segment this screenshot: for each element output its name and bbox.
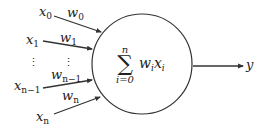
neuron-diagram: x0 x1 xn−1 xn w0 w1 wn−1 wn ⋮ ⋮ n ∑ i=0 … (0, 0, 264, 129)
ellipsis-x: ⋮ (28, 56, 39, 69)
sum-symbol: ∑ (117, 51, 133, 76)
weight-label-wn: wn (62, 88, 79, 105)
output-label-y: y (245, 57, 254, 72)
weight-label-w1: w1 (60, 30, 77, 47)
weight-label-wn-1: wn−1 (51, 67, 81, 84)
diagram-svg: x0 x1 xn−1 xn w0 w1 wn−1 wn ⋮ ⋮ n ∑ i=0 … (0, 0, 264, 129)
weight-label-w0: w0 (67, 5, 84, 22)
ellipsis-w: ⋮ (63, 56, 74, 69)
input-label-xn: xn (36, 109, 49, 126)
input-label-x1: x1 (26, 32, 39, 49)
sum-lower-limit: i=0 (116, 74, 135, 85)
sum-term: wixi (139, 55, 165, 73)
input-label-xn-1: xn−1 (14, 78, 40, 95)
input-label-x0: x0 (39, 4, 52, 21)
